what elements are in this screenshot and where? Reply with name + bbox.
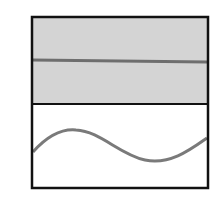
straight-line — [33, 60, 207, 62]
diagram — [0, 0, 219, 203]
bottom-panel — [32, 104, 208, 188]
